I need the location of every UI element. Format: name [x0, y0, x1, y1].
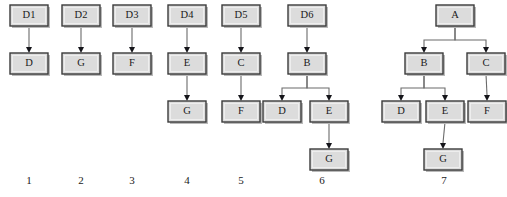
edge-c6n1-to-c6n2: [304, 26, 310, 53]
node-c2n2[interactable]: G: [62, 53, 102, 76]
node-label: B: [420, 57, 427, 68]
edge-c7n2-to-c7n5: [424, 74, 448, 101]
arrowhead-icon: [238, 95, 244, 101]
column-number-4: 4: [184, 174, 190, 186]
tree-diagram-figure: D1DD2GD3FD4EGD5CFD6BDEGABCDEFG 1234567: [0, 0, 507, 197]
arrowhead-icon: [440, 143, 446, 149]
node-label: F: [129, 57, 135, 68]
column-number-7: 7: [441, 174, 447, 186]
edge-c7n5-to-c7n7: [440, 122, 446, 149]
node-c1n1[interactable]: D1: [10, 5, 50, 28]
node-label: B: [303, 57, 310, 68]
column-number-6: 6: [319, 174, 325, 186]
node-c7n2[interactable]: B: [405, 53, 445, 76]
node-label: D: [278, 105, 286, 116]
node-label: E: [326, 105, 332, 116]
edge-c4n2-to-c4n3: [184, 74, 190, 101]
column-number-3: 3: [129, 174, 135, 186]
node-label: E: [442, 105, 448, 116]
node-c4n3[interactable]: G: [168, 101, 208, 124]
node-c6n1[interactable]: D6: [288, 5, 328, 28]
node-label: E: [184, 57, 190, 68]
arrowhead-icon: [398, 95, 404, 101]
arrowhead-icon: [129, 47, 135, 53]
node-c7n5[interactable]: E: [426, 101, 466, 124]
edge-c7n1-to-c7n3: [455, 26, 489, 53]
node-label: G: [439, 153, 447, 164]
node-label: A: [451, 9, 459, 20]
edge-c6n2-to-c6n4: [307, 74, 332, 101]
node-label: F: [238, 105, 244, 116]
arrowhead-icon: [279, 95, 285, 101]
column-number-2: 2: [78, 174, 84, 186]
node-c7n4[interactable]: D: [382, 101, 422, 124]
node-c7n3[interactable]: C: [467, 53, 507, 76]
node-label: G: [325, 153, 333, 164]
node-c4n2[interactable]: E: [168, 53, 208, 76]
edge-c6n4-to-c6n5: [326, 122, 332, 149]
node-c3n1[interactable]: D3: [113, 5, 153, 28]
edge-c6n2-to-c6n3: [279, 74, 307, 101]
node-c4n1[interactable]: D4: [168, 5, 208, 28]
arrowhead-icon: [238, 47, 244, 53]
node-c1n2[interactable]: D: [10, 53, 50, 76]
node-label: D: [397, 105, 405, 116]
node-c6n5[interactable]: G: [310, 149, 350, 172]
node-label: G: [183, 105, 191, 116]
arrowhead-icon: [26, 47, 32, 53]
node-label: D4: [181, 9, 195, 20]
node-c5n1[interactable]: D5: [222, 5, 262, 28]
node-c7n1[interactable]: A: [436, 5, 476, 28]
edge-c3n1-to-c3n2: [129, 26, 135, 53]
arrowhead-icon: [78, 47, 84, 53]
edge-c5n2-to-c5n3: [238, 74, 244, 101]
arrowhead-icon: [442, 95, 448, 101]
node-c6n2[interactable]: B: [288, 53, 328, 76]
arrowhead-icon: [184, 95, 190, 101]
node-label: C: [237, 57, 244, 68]
arrowhead-icon: [421, 47, 427, 53]
arrowhead-icon: [484, 95, 490, 101]
edge-c7n1-to-c7n2: [421, 26, 455, 53]
edge-c2n1-to-c2n2: [78, 26, 84, 53]
node-label: D: [25, 57, 33, 68]
edge-c4n1-to-c4n2: [184, 26, 190, 53]
edge-c7n2-to-c7n4: [398, 74, 424, 101]
node-c7n6[interactable]: F: [468, 101, 507, 124]
node-label: D6: [301, 9, 314, 20]
node-c2n1[interactable]: D2: [62, 5, 102, 28]
node-label: F: [484, 105, 490, 116]
node-c5n2[interactable]: C: [222, 53, 262, 76]
column-number-1: 1: [26, 174, 32, 186]
node-label: D1: [23, 9, 36, 20]
node-c7n7[interactable]: G: [424, 149, 464, 172]
node-c5n3[interactable]: F: [222, 101, 262, 124]
arrowhead-icon: [184, 47, 190, 53]
arrowhead-icon: [326, 95, 332, 101]
edge-c7n3-to-c7n6: [484, 74, 490, 101]
node-c3n2[interactable]: F: [113, 53, 153, 76]
edge-c5n1-to-c5n2: [238, 26, 244, 53]
arrowhead-icon: [483, 47, 489, 53]
node-label: D2: [75, 9, 88, 20]
edges-layer: [26, 26, 490, 149]
diagram-canvas: D1DD2GD3FD4EGD5CFD6BDEGABCDEFG 1234567: [0, 0, 507, 197]
column-number-5: 5: [238, 174, 244, 186]
node-label: D3: [126, 9, 139, 20]
node-label: D5: [235, 9, 248, 20]
node-label: C: [482, 57, 489, 68]
arrowhead-icon: [326, 143, 332, 149]
edge-c1n1-to-c1n2: [26, 26, 32, 53]
arrowhead-icon: [304, 47, 310, 53]
node-c6n4[interactable]: E: [310, 101, 350, 124]
node-label: G: [77, 57, 85, 68]
column-numbers-layer: 1234567: [26, 174, 447, 186]
node-c6n3[interactable]: D: [263, 101, 303, 124]
